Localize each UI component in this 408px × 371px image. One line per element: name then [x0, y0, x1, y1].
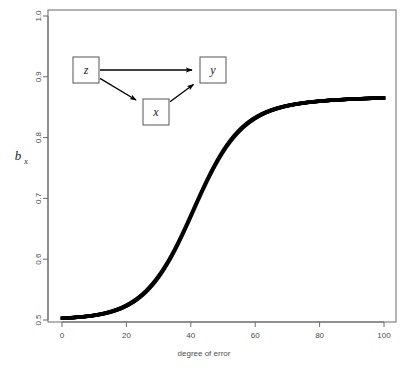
diagram-node-z: z — [73, 57, 99, 83]
plot-canvas: 0.50.60.70.80.91.0 020406080100 zxy degr… — [0, 0, 408, 371]
y-tick-label: 1.0 — [34, 10, 43, 22]
y-tick-label: 0.8 — [34, 131, 43, 143]
y-tick-label: 0.9 — [34, 71, 43, 83]
y-axis-title-subscript: x — [23, 157, 28, 166]
diagram-node-y: y — [200, 57, 226, 83]
y-axis-title-base: b — [15, 148, 22, 163]
diagram-node-label: x — [152, 105, 159, 119]
diagram-node-label: y — [209, 63, 216, 77]
y-tick-label: 0.5 — [34, 314, 43, 326]
x-tick-label: 20 — [122, 331, 131, 340]
x-tick-label: 60 — [251, 331, 260, 340]
x-tick-label: 0 — [60, 331, 65, 340]
chart-figure: 0.50.60.70.80.91.0 020406080100 zxy degr… — [0, 0, 408, 371]
x-tick-label: 80 — [315, 331, 324, 340]
diagram-node-label: z — [83, 63, 89, 77]
y-tick-label: 0.7 — [34, 192, 43, 204]
x-tick-label: 40 — [186, 331, 195, 340]
diagram-node-x: x — [143, 99, 169, 125]
y-tick-label: 0.6 — [34, 253, 43, 265]
x-axis-title: degree of error — [178, 349, 231, 358]
x-tick-label: 100 — [377, 331, 391, 340]
